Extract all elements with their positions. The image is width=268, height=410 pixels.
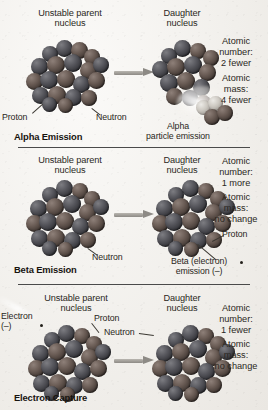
capture-transform-arrow <box>114 356 154 365</box>
capture-proton-label: Proton <box>94 314 134 324</box>
beta-parent-nucleus-label: Unstable parent nucleus <box>22 155 118 176</box>
panel-beta-emission: Unstable parent nucleus Daughter nucleus <box>0 148 268 285</box>
panel-alpha-emission: Unstable parent nucleus Daughter nucleus <box>0 0 268 148</box>
capture-parent-nucleus-label: Unstable parent nucleus <box>28 293 124 314</box>
beta-section-title: Beta Emission <box>14 264 77 275</box>
capture-neutron-label: Neutron <box>104 328 142 338</box>
capture-parent-nucleus <box>28 325 112 401</box>
capture-atomic-number-annotation: Atomic number: 1 fewer <box>207 303 265 336</box>
panel-electron-capture: Unstable parent nucleus Daughter nucleus… <box>0 285 268 410</box>
beta-atomic-number-annotation: Atomic number: 1 more <box>207 156 265 189</box>
alpha-atomic-number-annotation: Atomic number: 2 fewer <box>207 36 265 69</box>
beta-parent-nucleus <box>26 180 110 256</box>
figure-canvas: Unstable parent nucleus Daughter nucleus <box>0 0 268 410</box>
beta-atomic-mass-annotation: Atomic mass: no change <box>205 192 267 225</box>
beta-electron-emission-label: Beta (electron) emission (–) <box>160 257 238 277</box>
alpha-transform-arrow <box>114 68 154 77</box>
alpha-particle-emission-label: Alpha particle emission <box>132 122 224 142</box>
beta-proton-label: Proton <box>222 230 262 240</box>
alpha-proton-label: Proton <box>2 113 36 123</box>
beta-neutron-label: Neutron <box>92 253 134 263</box>
beta-electron-dot <box>240 261 243 264</box>
alpha-parent-nucleus-label: Unstable parent nucleus <box>22 8 118 29</box>
alpha-section-title: Alpha Emission <box>14 131 82 142</box>
capture-atomic-mass-annotation: Atomic mass: no change <box>205 339 267 372</box>
beta-transform-arrow <box>114 210 154 219</box>
capture-section-title: Electron Capture <box>14 392 87 403</box>
alpha-daughter-nucleus-label: Daughter nucleus <box>146 8 218 29</box>
alpha-atomic-mass-annotation: Atomic mass: 4 fewer <box>207 73 265 106</box>
alpha-parent-nucleus <box>26 40 110 112</box>
